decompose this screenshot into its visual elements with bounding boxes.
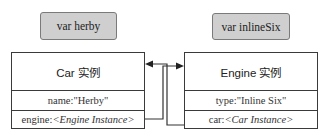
arrow-right-icon <box>176 63 184 70</box>
arrow-left-icon <box>145 61 153 68</box>
car-to-engine-link <box>145 63 184 120</box>
engine-to-car-link <box>145 61 184 126</box>
reference-links <box>0 0 326 139</box>
